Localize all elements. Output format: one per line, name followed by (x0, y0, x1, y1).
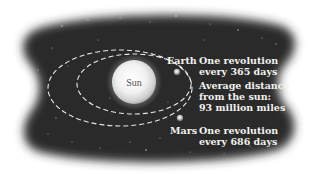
mars-revolution-line1: One revolution (199, 125, 278, 136)
earth-label: Earth (167, 55, 197, 66)
earth-distance-line2: from the sun: (199, 91, 271, 102)
earth-planet-icon (174, 69, 180, 75)
sun-label: Sun (126, 77, 142, 88)
earth-revolution-line2: every 365 days (199, 66, 277, 77)
solar-system-diagram: Sun Earth One revolution every 365 days … (0, 0, 318, 174)
earth-revolution-line1: One revolution (199, 55, 278, 66)
earth-distance-line3: 93 million miles (199, 102, 285, 113)
mars-revolution-line2: every 686 days (199, 136, 277, 147)
earth-distance-line1: Average distance (198, 80, 290, 91)
mars-planet-icon (177, 115, 183, 121)
mars-label: Mars (170, 125, 197, 136)
